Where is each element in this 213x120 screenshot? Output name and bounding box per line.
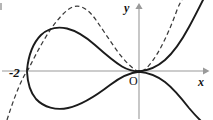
origin-label: O — [129, 75, 138, 87]
solid-curve-branch-lower-right — [139, 72, 201, 120]
x-axis-label: x — [198, 76, 204, 88]
y-axis-label: y — [124, 2, 129, 14]
x-axis-arrowhead — [203, 67, 210, 74]
y-axis-arrowhead — [135, 3, 142, 9]
solid-curve-loop-lower — [27, 72, 139, 109]
origin-node-dot — [136, 70, 142, 73]
solid-curve-loop-upper — [27, 28, 139, 72]
curve-figure: -2 O x y — [0, 0, 213, 120]
solid-curve-branch-upper-right — [139, 0, 204, 71]
plot-canvas — [0, 0, 213, 120]
x-intercept-label-minus-two: -2 — [9, 66, 20, 79]
dashed-curve-cubic — [7, 0, 182, 120]
